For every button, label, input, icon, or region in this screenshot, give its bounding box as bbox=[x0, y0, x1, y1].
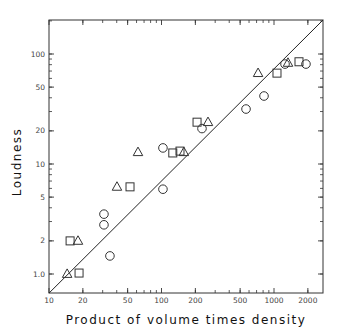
x-axis-ticks: 10205010020050010002000 bbox=[44, 20, 317, 305]
triangle-marker bbox=[283, 58, 293, 66]
x-axis-title: Product of volume times density bbox=[66, 313, 307, 327]
y-axis-title: Loudness bbox=[10, 128, 24, 197]
triangle-marker bbox=[62, 269, 72, 278]
x-tick-label: 500 bbox=[233, 296, 248, 305]
square-marker bbox=[126, 183, 134, 191]
circle-marker bbox=[159, 144, 168, 153]
triangle-marker bbox=[253, 68, 263, 77]
x-tick-label: 200 bbox=[188, 296, 203, 305]
circle-marker bbox=[242, 105, 251, 114]
square-marker bbox=[273, 69, 281, 77]
y-tick-label: 2 bbox=[40, 236, 45, 245]
circle-marker bbox=[260, 92, 269, 101]
triangle-marker bbox=[203, 117, 212, 126]
x-tick-label: 100 bbox=[154, 296, 169, 305]
triangle-marker bbox=[112, 182, 122, 191]
data-points bbox=[62, 58, 310, 278]
y-tick-label: 10 bbox=[35, 160, 45, 169]
y-tick-label: 50 bbox=[35, 83, 45, 92]
y-tick-label: 1.0 bbox=[33, 270, 45, 279]
y-tick-label: 20 bbox=[35, 126, 45, 135]
circle-marker bbox=[100, 221, 109, 230]
y-tick-label: 5 bbox=[40, 193, 45, 202]
x-tick-label: 2000 bbox=[298, 296, 317, 305]
square-marker bbox=[66, 237, 74, 245]
circle-marker bbox=[100, 210, 109, 219]
y-tick-label: 100 bbox=[31, 50, 46, 59]
x-tick-label: 1000 bbox=[264, 296, 283, 305]
scatter-chart: 10205010020050010002000 1.025102050100 P… bbox=[0, 0, 339, 336]
triangle-marker bbox=[73, 236, 83, 245]
x-tick-label: 50 bbox=[123, 296, 133, 305]
x-tick-label: 10 bbox=[44, 296, 54, 305]
circle-marker bbox=[106, 252, 115, 261]
triangle-marker bbox=[133, 147, 143, 156]
square-marker bbox=[75, 269, 83, 277]
circle-marker bbox=[159, 185, 168, 194]
x-tick-label: 20 bbox=[78, 296, 88, 305]
